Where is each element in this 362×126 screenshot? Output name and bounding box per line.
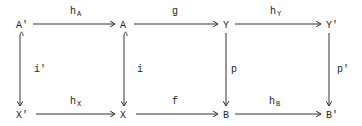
label-hA: h	[70, 6, 76, 17]
label-hY-sub: Y	[277, 10, 282, 18]
label-p-prime: p'	[337, 64, 349, 75]
label-i: i	[137, 64, 143, 75]
node-y: Y	[223, 20, 229, 31]
node-x-prime: X'	[16, 110, 28, 121]
label-hB-sub: B	[276, 100, 280, 108]
label-hX-sub: X	[77, 100, 82, 108]
diagram-canvas: A' A Y Y' X' X B B' h A g h Y h X f h B …	[0, 0, 362, 126]
label-i-prime: i'	[34, 64, 46, 75]
label-hA-sub: A	[77, 10, 82, 18]
label-f: f	[172, 96, 178, 107]
hook-i-prime	[20, 32, 23, 36]
label-g: g	[172, 6, 178, 17]
node-a: A	[120, 20, 126, 31]
node-a-prime: A'	[16, 20, 28, 31]
hook-i	[124, 32, 127, 36]
label-hX: h	[70, 96, 76, 107]
label-hY: h	[270, 6, 276, 17]
node-y-prime: Y'	[326, 20, 338, 31]
commutative-diagram: A' A Y Y' X' X B B' h A g h Y h X f h B …	[0, 0, 362, 126]
label-p: p	[231, 64, 237, 75]
node-x: X	[120, 110, 126, 121]
node-b: B	[223, 110, 229, 121]
label-hB: h	[269, 96, 275, 107]
node-b-prime: B'	[326, 110, 338, 121]
